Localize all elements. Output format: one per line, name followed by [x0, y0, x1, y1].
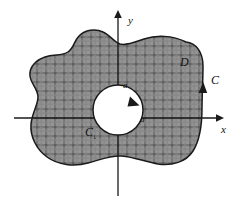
inner-circle-c1 — [93, 85, 143, 135]
region-label-d: D — [179, 55, 189, 69]
outer-curve-label-c: C — [211, 73, 220, 87]
y-axis-label: y — [127, 14, 133, 26]
figure-container: y x D C C 1 a a — [0, 0, 235, 205]
radius-label-top: a — [123, 80, 128, 90]
inner-curve-label-subscript: 1 — [93, 133, 96, 140]
radius-label-right: a — [140, 114, 145, 124]
x-axis-label: x — [220, 123, 226, 135]
region-diagram-svg: y x D C C 1 a a — [0, 0, 235, 205]
